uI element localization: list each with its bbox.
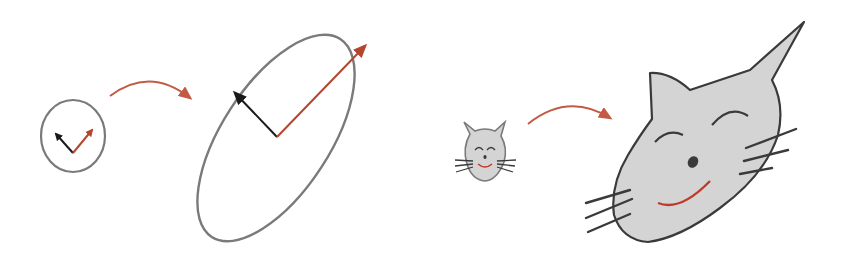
transformation-figure (0, 0, 848, 268)
transform-arrow-1 (110, 81, 190, 98)
small-cat (455, 122, 516, 181)
transformed-ellipse (166, 10, 385, 267)
black-transformed-vector (235, 93, 277, 137)
black-basis-vector (56, 134, 73, 153)
transform-arrow-2 (528, 106, 610, 124)
red-transformed-vector (277, 46, 365, 137)
red-basis-vector (73, 130, 92, 153)
transformed-cat (586, 22, 804, 242)
unit-circle (41, 100, 105, 172)
